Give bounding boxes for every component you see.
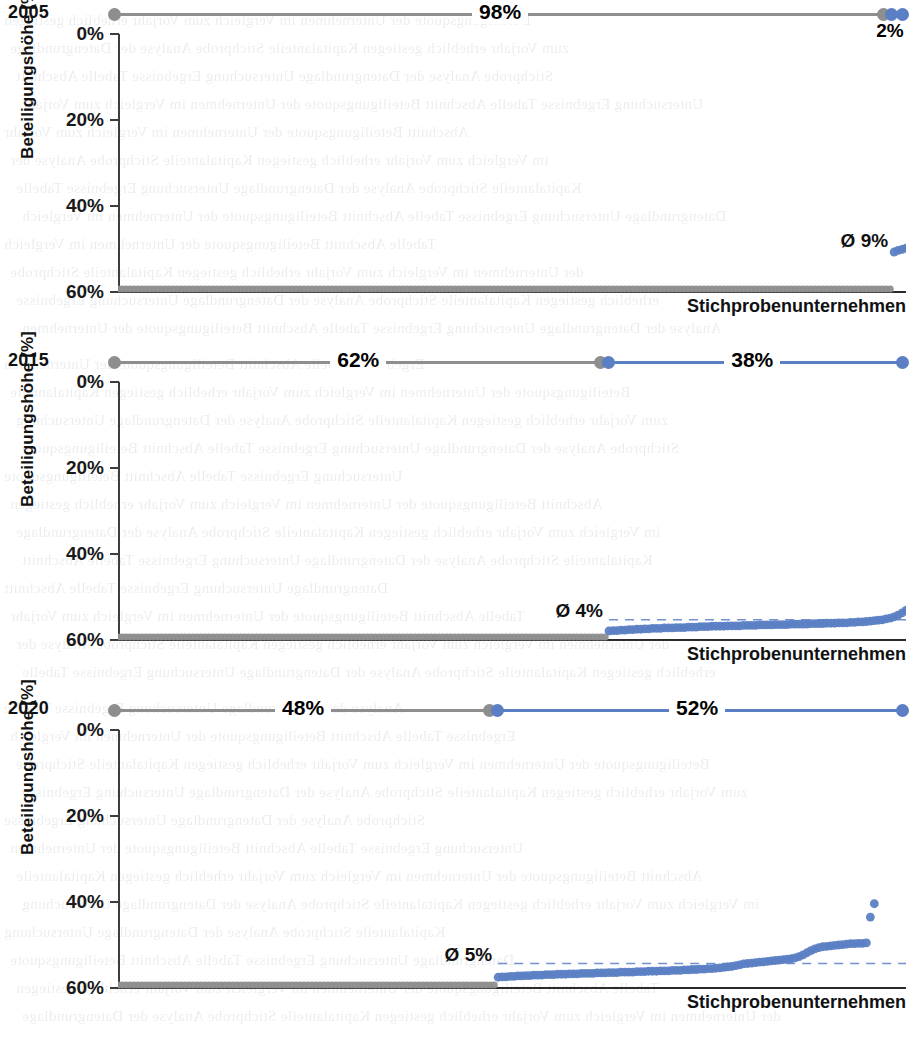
scatter-plot-area: Ø 9% — [118, 0, 906, 348]
y-axis-tick-label: 60% — [0, 977, 104, 999]
y-axis-tick-label: 40% — [0, 891, 104, 913]
scatter-svg — [118, 696, 906, 1044]
chart-panel-2015: 201560%40%20%0%Beteiligungshöhe [%]Stich… — [0, 348, 914, 696]
figure-panels: 200560%40%20%0%Beteiligungshöhe [%]Stich… — [0, 0, 914, 1044]
y-axis-tick-label: 60% — [0, 629, 104, 651]
grey-point-series — [118, 285, 894, 292]
y-axis-tick-label: 0% — [0, 371, 104, 393]
chart-panel-2005: 200560%40%20%0%Beteiligungshöhe [%]Stich… — [0, 0, 914, 348]
y-axis-tick-label: 0% — [0, 719, 104, 741]
y-axis-tick-label: 60% — [0, 281, 104, 303]
y-axis-tick-label: 20% — [0, 805, 104, 827]
y-axis-title-wrap: Beteiligungshöhe [%] — [18, 304, 40, 534]
average-value-label: Ø 5% — [445, 944, 493, 966]
scatter-svg — [118, 348, 906, 696]
average-value-label: Ø 4% — [555, 600, 603, 622]
blue-point-series — [605, 549, 906, 635]
scatter-plot-area: Ø 5% — [118, 696, 906, 1044]
grey-point-series — [118, 633, 609, 640]
scatter-svg — [118, 0, 906, 348]
y-axis-tick-label: 40% — [0, 543, 104, 565]
y-axis-title-wrap: Beteiligungshöhe [%] — [18, 0, 40, 186]
y-axis-tick-label: 20% — [0, 109, 104, 131]
y-axis-tick-label: 40% — [0, 195, 104, 217]
chart-panel-2020: 202060%40%20%0%Beteiligungshöhe [%]Stich… — [0, 696, 914, 1044]
scatter-plot-area: Ø 4% — [118, 348, 906, 696]
y-axis-title-wrap: Beteiligungshöhe [%] — [18, 652, 40, 882]
y-axis-tick-label: 0% — [0, 23, 104, 45]
grey-point-series — [118, 981, 498, 988]
y-axis-tick-label: 20% — [0, 457, 104, 479]
blue-point-series — [494, 899, 879, 981]
average-value-label: Ø 9% — [841, 230, 889, 252]
